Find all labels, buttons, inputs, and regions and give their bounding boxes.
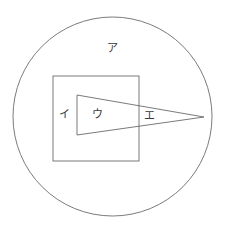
region-label-a: ア	[107, 43, 118, 54]
region-label-i: イ	[59, 109, 70, 120]
region-label-e: エ	[144, 110, 155, 121]
venn-diagram	[0, 0, 227, 229]
figure-canvas: ア イ ウ エ	[0, 0, 227, 229]
region-label-u: ウ	[92, 109, 103, 120]
